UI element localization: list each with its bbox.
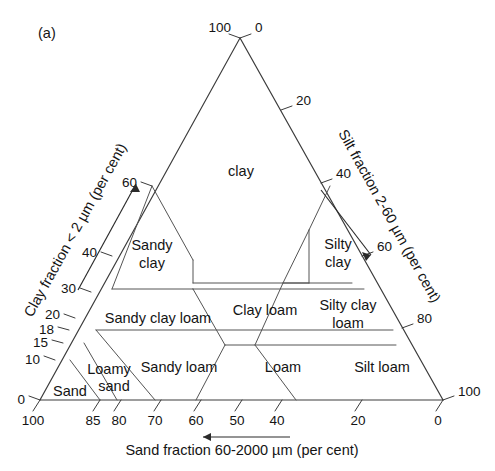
bottom-axis-title: Sand fraction 60-2000 µm (per cent) [125, 442, 358, 458]
tick-label-sand-60: 60 [188, 413, 203, 428]
region-label-sandy-clay-loam: Sandy clay loam [105, 310, 211, 326]
tick-label-sand-100: 100 [22, 413, 45, 428]
tick-label-clay-10: 10 [25, 352, 40, 367]
region-label-clay-loam: Clay loam [233, 302, 297, 318]
tick-label-clay-15: 15 [33, 335, 48, 350]
region-label-silty-clay-line1: Silty [324, 236, 352, 252]
tick-label-silt-60: 60 [377, 239, 392, 254]
tick-label-sand-20: 20 [350, 413, 365, 428]
region-label-loam: Loam [265, 359, 301, 375]
tick-label-silt-0: 0 [255, 20, 263, 35]
tick-label-clay-20: 20 [45, 307, 60, 322]
region-label-silty-clay-line2: clay [325, 254, 352, 270]
tick-label-clay-30: 30 [61, 281, 76, 296]
tick-label-silt-20: 20 [296, 93, 311, 108]
region-label-silty-clay-loam-line1: Silty clay [319, 297, 377, 313]
panel-label: (a) [38, 25, 56, 41]
region-label-clay: clay [228, 163, 255, 179]
tick-label-silt-40: 40 [336, 166, 351, 181]
tick-label-silt-100: 100 [458, 384, 481, 399]
region-label-sandy-clay-line2: clay [139, 255, 166, 271]
tick-label-sand-40: 40 [269, 413, 284, 428]
tick-label-sand-0: 0 [434, 413, 442, 428]
ternary-diagram: 100 60 40 30 20 18 15 10 0 0 20 40 60 80… [0, 0, 495, 471]
region-label-sandy-clay-line1: Sandy [131, 237, 173, 253]
region-label-sand: Sand [53, 383, 87, 399]
tick-label-clay-0: 0 [17, 392, 25, 407]
tick-label-sand-80: 80 [111, 413, 126, 428]
region-label-loamy-sand-line2: sand [98, 378, 129, 394]
tick-label-clay-40: 40 [82, 245, 97, 260]
region-label-sandy-loam: Sandy loam [141, 359, 218, 375]
tick-label-sand-85: 85 [85, 413, 100, 428]
tick-label-sand-50: 50 [229, 413, 244, 428]
region-label-silty-clay-loam-line2: loam [332, 315, 363, 331]
soil-texture-triangle-figure: 100 60 40 30 20 18 15 10 0 0 20 40 60 80… [0, 0, 495, 471]
tick-label-clay-100: 100 [208, 20, 231, 35]
tick-label-silt-80: 80 [417, 311, 432, 326]
region-label-loamy-sand-line1: Loamy [87, 361, 131, 377]
region-label-silt-loam: Silt loam [354, 359, 410, 375]
tick-label-sand-70: 70 [147, 413, 162, 428]
